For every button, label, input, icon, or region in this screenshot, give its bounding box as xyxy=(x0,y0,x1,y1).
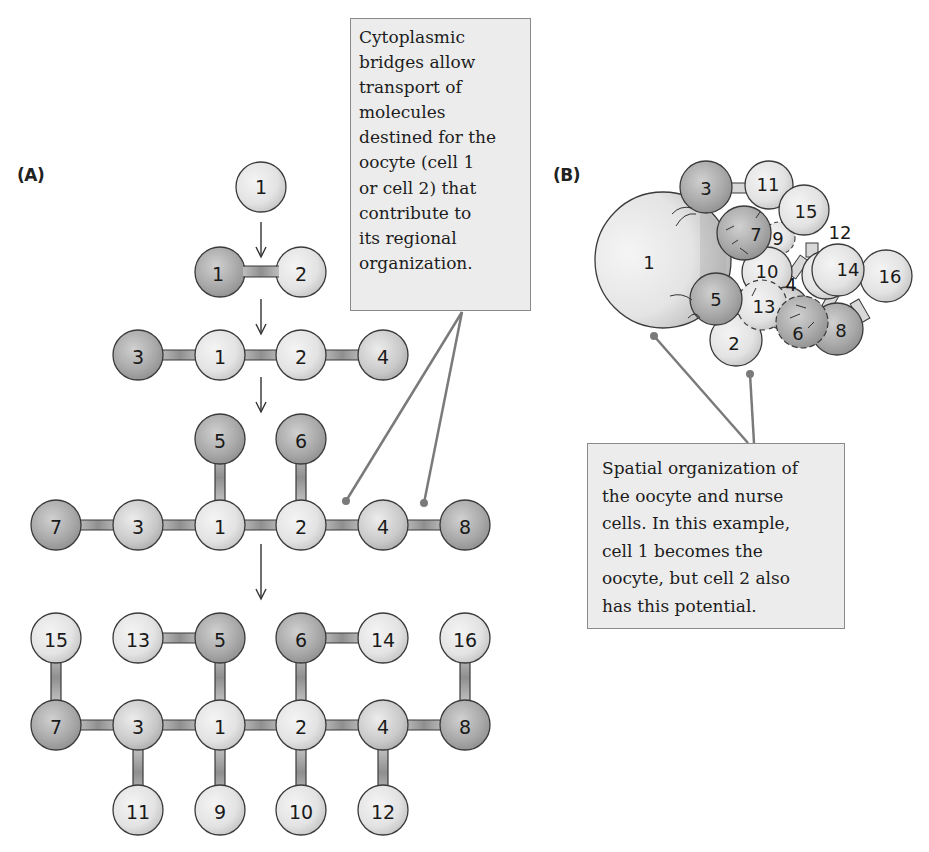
callout-line: cells. In this example, xyxy=(602,510,838,538)
cell-7: 7 xyxy=(750,224,761,245)
cell-4: 4 xyxy=(785,274,796,295)
callout-line: cell 1 becomes the xyxy=(602,538,838,566)
cell-6: 6 xyxy=(295,430,307,452)
cell-1: 1 xyxy=(214,346,226,368)
spatial-callout: Spatial organization of the oocyte and n… xyxy=(587,443,845,629)
cell-5: 5 xyxy=(214,629,226,651)
callout-line: organization. xyxy=(359,251,524,276)
callout-line: Spatial organization of xyxy=(602,455,838,483)
cell-1: 1 xyxy=(214,516,226,538)
cell-7: 7 xyxy=(50,516,62,538)
cell-13: 13 xyxy=(753,296,776,317)
cell-15: 15 xyxy=(44,629,68,651)
cell-8: 8 xyxy=(459,716,471,738)
cell-5: 5 xyxy=(214,430,226,452)
cell-16: 16 xyxy=(453,629,477,651)
cell-2: 2 xyxy=(295,346,307,368)
callout-line: bridges allow xyxy=(359,50,524,75)
callout-line: molecules xyxy=(359,100,524,125)
cell-7: 7 xyxy=(50,716,62,738)
cell-1: 1 xyxy=(212,263,224,285)
cell-1: 1 xyxy=(214,716,226,738)
callout-line: oocyte (cell 1 xyxy=(359,150,524,175)
panel-b: 1 2 3 4 5 6 7 8 9 10 11 12 13 14 15 16 xyxy=(595,161,912,443)
cell-2: 2 xyxy=(295,716,307,738)
cell-14: 14 xyxy=(371,629,395,651)
cell-6: 6 xyxy=(295,629,307,651)
callout-line: or cell 2) that xyxy=(359,176,524,201)
division-arrows xyxy=(256,222,266,599)
cell-12: 12 xyxy=(829,222,852,243)
cell-1: 1 xyxy=(643,252,654,273)
stage-1: 1 xyxy=(236,162,286,212)
stage-4: 7 3 1 2 4 8 5 6 xyxy=(31,414,490,550)
cell-10: 10 xyxy=(289,801,313,823)
callout-line: the oocyte and nurse xyxy=(602,483,838,511)
cell-13: 13 xyxy=(126,629,150,651)
callout-line: contribute to xyxy=(359,201,524,226)
callout-line: Cytoplasmic xyxy=(359,25,524,50)
cell-3: 3 xyxy=(700,178,711,199)
cell-1: 1 xyxy=(255,176,267,198)
cell-4: 4 xyxy=(377,346,389,368)
cell-16: 16 xyxy=(879,266,902,287)
cell-3: 3 xyxy=(132,516,144,538)
cell-8: 8 xyxy=(459,516,471,538)
cell-2: 2 xyxy=(728,333,739,354)
cell-15: 15 xyxy=(795,201,818,222)
callout-line: transport of xyxy=(359,75,524,100)
stage-3: 3 1 2 4 xyxy=(113,330,408,380)
cell-11: 11 xyxy=(757,174,780,195)
cell-8: 8 xyxy=(835,320,846,341)
callout-line: has this potential. xyxy=(602,593,838,621)
cell-11: 11 xyxy=(126,801,150,823)
callout-line: its regional xyxy=(359,226,524,251)
figure: (A) (B) xyxy=(0,0,929,852)
cell-12: 12 xyxy=(371,801,395,823)
callout-line: oocyte, but cell 2 also xyxy=(602,565,838,593)
cell-5: 5 xyxy=(710,289,721,310)
cell-9: 9 xyxy=(214,801,226,823)
cell-9: 9 xyxy=(772,228,783,249)
stage-5: 15 13 5 6 14 16 7 3 1 2 4 8 11 9 10 12 xyxy=(31,613,490,835)
cell-2: 2 xyxy=(295,263,307,285)
cell-3: 3 xyxy=(132,716,144,738)
cell-14: 14 xyxy=(837,259,860,280)
cell-6: 6 xyxy=(792,323,803,344)
cell-3: 3 xyxy=(132,346,144,368)
bridges-callout: Cytoplasmic bridges allow transport of m… xyxy=(350,18,531,311)
cell-10: 10 xyxy=(756,261,779,282)
callout-line: destined for the xyxy=(359,125,524,150)
cell-2: 2 xyxy=(295,516,307,538)
cell-4: 4 xyxy=(377,716,389,738)
cell-4: 4 xyxy=(377,516,389,538)
